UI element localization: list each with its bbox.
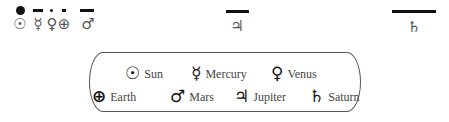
jupiter-marker xyxy=(226,10,249,13)
legend-item-saturn: ♄ Saturn xyxy=(309,88,360,105)
sun-symbol-icon: ☉ xyxy=(13,17,26,32)
venus-marker xyxy=(50,9,53,12)
legend-label: Jupiter xyxy=(253,90,286,104)
venus-symbol-icon: ♀ xyxy=(47,17,58,32)
legend-label: Venus xyxy=(287,67,316,81)
legend-label: Saturn xyxy=(328,90,359,104)
sun-icon: ☉ xyxy=(125,65,140,82)
jupiter-symbol-icon: ♃ xyxy=(230,19,243,34)
saturn-icon: ♄ xyxy=(309,88,324,105)
mars-icon: ♂ xyxy=(170,88,185,105)
legend-label: Earth xyxy=(110,90,136,104)
legend-item-mercury: ☿ Mercury xyxy=(191,65,247,82)
mars-symbol-icon: ♂ xyxy=(81,17,94,32)
mercury-symbol-icon: ☿ xyxy=(33,17,42,32)
legend-item-sun: ☉ Sun xyxy=(125,65,163,82)
legend-item-mars: ♂ Mars xyxy=(170,88,214,105)
saturn-symbol-icon: ♄ xyxy=(407,20,420,35)
mercury-marker xyxy=(33,9,43,12)
earth-symbol-icon: ⊕ xyxy=(58,17,71,32)
sun-marker xyxy=(16,6,25,15)
legend-item-jupiter: ♃ Jupiter xyxy=(234,88,286,105)
legend-label: Mars xyxy=(189,90,214,104)
earth-marker xyxy=(62,9,66,12)
legend-label: Sun xyxy=(144,67,163,81)
venus-icon: ♀ xyxy=(271,65,283,82)
legend-item-venus: ♀ Venus xyxy=(271,65,317,82)
legend-item-earth: ⊕ Earth xyxy=(92,88,136,105)
mercury-icon: ☿ xyxy=(191,65,201,82)
mars-marker xyxy=(80,9,94,12)
saturn-marker xyxy=(392,10,436,13)
earth-icon: ⊕ xyxy=(92,88,106,105)
legend-label: Mercury xyxy=(205,67,246,81)
jupiter-icon: ♃ xyxy=(234,88,249,105)
